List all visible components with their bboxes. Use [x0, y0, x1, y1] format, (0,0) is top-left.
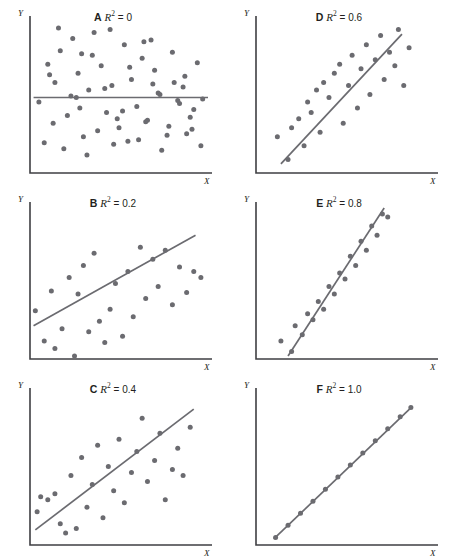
data-point [134, 449, 139, 454]
data-point [95, 128, 100, 133]
data-point [385, 215, 390, 220]
data-point [145, 479, 150, 484]
data-point [84, 152, 89, 157]
data-point [77, 106, 82, 111]
data-point [293, 323, 298, 328]
data-point [408, 405, 413, 410]
scatter-panel-f: F R2 = 1.0YX [226, 372, 452, 558]
data-point [159, 148, 164, 153]
data-point [150, 257, 155, 262]
data-point [61, 146, 66, 151]
data-point [380, 212, 385, 217]
data-point [131, 314, 136, 319]
data-point [364, 248, 369, 253]
data-point [125, 139, 130, 144]
data-point [310, 499, 315, 504]
data-point [278, 338, 283, 343]
plot-area-c [0, 372, 226, 558]
data-point [286, 523, 291, 528]
axis-lines [30, 16, 212, 173]
data-point [163, 248, 168, 253]
data-point [343, 276, 348, 281]
data-point [314, 87, 319, 92]
data-point [115, 116, 120, 121]
data-point [33, 308, 38, 313]
data-point [172, 80, 177, 85]
data-point [200, 97, 205, 102]
data-point [100, 515, 105, 520]
data-point [298, 511, 303, 516]
data-point [111, 142, 116, 147]
data-point [407, 45, 412, 50]
plot-area-e [226, 186, 452, 372]
data-point [122, 42, 127, 47]
data-point [102, 340, 107, 345]
data-point [387, 50, 392, 55]
data-point [92, 251, 97, 256]
data-point [157, 431, 162, 436]
data-point [95, 443, 100, 448]
data-point [108, 27, 113, 32]
data-point [86, 87, 91, 92]
data-point [302, 143, 307, 148]
data-point [60, 326, 65, 331]
data-point [309, 110, 314, 115]
scatter-panel-c: C R2 = 0.4YX [0, 372, 226, 558]
data-point [181, 473, 186, 478]
data-point [65, 113, 70, 118]
data-point [273, 535, 278, 540]
data-point [300, 332, 305, 337]
data-point [76, 292, 81, 297]
axis-lines [256, 202, 438, 359]
data-point [321, 307, 326, 312]
plot-area-b [0, 186, 226, 372]
data-point [58, 48, 63, 53]
data-point [42, 338, 47, 343]
data-point [175, 446, 180, 451]
data-point [156, 90, 161, 95]
data-point [182, 74, 187, 79]
plot-area-d [226, 0, 452, 186]
data-point [296, 116, 301, 121]
data-point [129, 470, 134, 475]
data-point [79, 455, 84, 460]
data-point [74, 95, 79, 100]
data-point [198, 275, 203, 280]
data-point [42, 140, 47, 145]
data-point [90, 53, 95, 58]
data-point [52, 80, 57, 85]
data-point [36, 100, 41, 105]
regression-line [34, 235, 196, 326]
data-point [398, 414, 403, 419]
data-point [392, 63, 397, 68]
data-point [165, 133, 170, 138]
data-point [166, 124, 171, 129]
data-point [76, 71, 81, 76]
data-point [52, 491, 57, 496]
data-point [122, 500, 127, 505]
data-point [111, 488, 116, 493]
data-point [321, 80, 326, 85]
data-point [63, 530, 68, 535]
data-point [56, 26, 61, 31]
data-point [350, 53, 355, 58]
data-point [359, 66, 364, 71]
data-point [97, 319, 102, 324]
data-point [364, 42, 369, 47]
data-points [33, 245, 204, 359]
scatter-panel-e: E R2 = 0.8YX [226, 186, 452, 372]
data-point [127, 65, 132, 70]
data-point [378, 33, 383, 38]
data-point [323, 487, 328, 492]
data-point [373, 438, 378, 443]
data-point [346, 83, 351, 88]
scatter-panel-d: D R2 = 0.6YX [226, 0, 452, 186]
data-points [278, 212, 390, 354]
data-point [341, 121, 346, 126]
data-point [138, 245, 143, 250]
data-point [382, 77, 387, 82]
data-point [113, 281, 118, 286]
data-point [81, 263, 86, 268]
data-point [109, 83, 114, 88]
data-point [49, 289, 54, 294]
